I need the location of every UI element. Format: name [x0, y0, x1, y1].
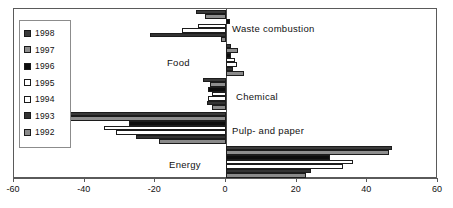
category-label-waste: Waste combustion [232, 23, 315, 34]
legend-label: 1994 [35, 94, 55, 104]
x-tick-label: -20 [139, 184, 169, 194]
legend-swatch-icon [24, 79, 31, 86]
legend-label: 1992 [35, 127, 55, 137]
category-label-energy: Energy [169, 159, 201, 170]
x-tick [13, 178, 14, 182]
legend-swatch-icon [24, 129, 31, 136]
x-tick [296, 178, 297, 182]
bar-group [14, 44, 438, 76]
category-label-pulp: Pulp- and paper [232, 125, 304, 136]
legend-item-1997[interactable]: 1997 [24, 42, 67, 59]
bar-group [14, 146, 438, 178]
x-tick [437, 178, 438, 182]
legend-swatch-icon [24, 96, 31, 103]
x-tick [154, 178, 155, 182]
bar-group [14, 78, 438, 110]
legend: 1998199719961995199419931992 [19, 20, 71, 148]
bar-1992[interactable] [212, 105, 226, 110]
legend-swatch-icon [24, 46, 31, 53]
legend-label: 1998 [35, 28, 55, 38]
legend-swatch-icon [24, 30, 31, 37]
legend-swatch-icon [24, 112, 31, 119]
x-tick-label: 40 [351, 184, 381, 194]
bar-1992[interactable] [226, 71, 244, 76]
bar-row [14, 105, 438, 110]
legend-item-1998[interactable]: 1998 [24, 25, 67, 42]
bar-row [14, 71, 438, 76]
plot-area: Waste combustionFoodChemicalPulp- and pa… [13, 8, 437, 178]
legend-label: 1997 [35, 45, 55, 55]
x-tick-label: -60 [0, 184, 28, 194]
legend-label: 1993 [35, 111, 55, 121]
bar-1992[interactable] [221, 37, 226, 42]
legend-item-1993[interactable]: 1993 [24, 108, 67, 125]
bar-1992[interactable] [159, 139, 226, 144]
x-tick-label: 60 [422, 184, 452, 194]
x-tick-label: -40 [69, 184, 99, 194]
category-label-chemical: Chemical [236, 91, 278, 102]
x-tick [84, 178, 85, 182]
legend-item-1996[interactable]: 1996 [24, 58, 67, 75]
bar-group [14, 10, 438, 42]
x-tick-label: 0 [210, 184, 240, 194]
legend-label: 1996 [35, 61, 55, 71]
bar-group [14, 112, 438, 144]
legend-label: 1995 [35, 78, 55, 88]
x-tick-label: 20 [281, 184, 311, 194]
legend-item-1995[interactable]: 1995 [24, 75, 67, 92]
legend-item-1992[interactable]: 1992 [24, 124, 67, 141]
legend-item-1994[interactable]: 1994 [24, 91, 67, 108]
bar-row [14, 37, 438, 42]
x-tick [225, 178, 226, 182]
category-label-food: Food [167, 57, 190, 68]
legend-swatch-icon [24, 63, 31, 70]
bar-row [14, 139, 438, 144]
x-tick [366, 178, 367, 182]
bar-chart: Waste combustionFoodChemicalPulp- and pa… [0, 0, 453, 208]
